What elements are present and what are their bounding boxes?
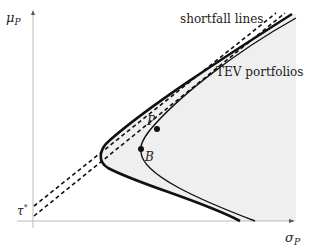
tau-star-label: τ*	[17, 203, 28, 218]
tev-shaded-region	[101, 14, 296, 221]
mean-volatility-diagram: μP σP τ* shortfall lines TEV portfolios …	[0, 0, 312, 246]
point-b-label: B	[144, 150, 154, 164]
point-b-marker	[138, 146, 144, 152]
y-axis-label: μP	[6, 10, 21, 27]
shortfall-lines-label: shortfall lines	[180, 12, 263, 26]
x-axis-label: σP	[285, 230, 301, 246]
tev-portfolios-label: TEV portfolios	[216, 65, 303, 79]
point-p-label: P	[146, 114, 156, 128]
y-axis-arrow-icon	[31, 10, 35, 15]
